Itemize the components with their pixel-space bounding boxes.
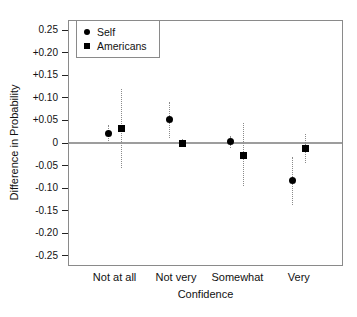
y-tick-label: +0.15	[33, 69, 58, 81]
zero-reference-line	[69, 142, 342, 144]
square-marker-icon	[84, 43, 90, 49]
y-tick-label: -0.05	[35, 160, 58, 172]
x-category-label: Not at all	[93, 271, 136, 283]
chart: Difference in Probability 0.25+0.20+0.15…	[0, 0, 357, 317]
y-axis-tick	[62, 52, 68, 53]
y-tick-label: +0.10	[33, 92, 58, 104]
x-category-label: Somewhat	[211, 271, 263, 283]
legend-label-americans: Americans	[97, 39, 147, 53]
x-category-label: Not very	[156, 271, 197, 283]
y-axis-tick	[62, 233, 68, 234]
x-axis-tick-labels: Not at allNot verySomewhatVery	[69, 267, 342, 283]
y-tick-label: +0.20	[33, 47, 58, 59]
y-tick-label: -0.15	[35, 205, 58, 217]
y-axis-tick	[62, 143, 68, 144]
legend-item-americans: Americans	[84, 39, 147, 53]
data-point-self	[166, 116, 173, 123]
data-point-self	[227, 138, 234, 145]
y-axis-tick	[62, 120, 68, 121]
y-tick-label: +0.05	[33, 114, 58, 126]
y-tick-label: -0.20	[35, 227, 58, 239]
circle-marker-icon	[84, 29, 90, 35]
y-axis-tick-labels: 0.25+0.20+0.15+0.10+0.050-0.05-0.10-0.15…	[0, 21, 58, 265]
y-axis-tick	[62, 30, 68, 31]
y-axis-tick	[62, 165, 68, 166]
y-axis-tick	[62, 210, 68, 211]
data-point-americans	[302, 145, 309, 152]
legend: Self Americans	[76, 20, 160, 58]
data-point-self	[105, 130, 112, 137]
y-tick-label: -0.10	[35, 182, 58, 194]
data-point-americans	[118, 125, 125, 132]
x-axis-title: Confidence	[69, 288, 342, 300]
legend-label-self: Self	[97, 25, 115, 39]
y-axis-tick	[62, 188, 68, 189]
y-tick-label: 0	[52, 137, 58, 149]
y-tick-label: -0.25	[35, 250, 58, 262]
legend-item-self: Self	[84, 25, 147, 39]
y-axis-tick	[62, 255, 68, 256]
data-point-americans	[240, 152, 247, 159]
x-category-label: Very	[288, 271, 310, 283]
y-axis-tick	[62, 75, 68, 76]
data-point-americans	[179, 140, 186, 147]
y-axis-tick	[62, 97, 68, 98]
data-point-self	[289, 177, 296, 184]
y-tick-label: 0.25	[39, 24, 58, 36]
